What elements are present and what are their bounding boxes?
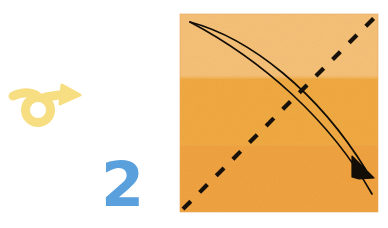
step-number: 2 [94,150,150,220]
origami-diagram-canvas [0,0,388,228]
paper-band-bottom [180,145,378,212]
paper-band-middle [180,78,378,145]
origami-paper-square [180,14,378,212]
paper-band-top-light [180,14,378,78]
paper-crease-shade-1 [180,76,378,79]
